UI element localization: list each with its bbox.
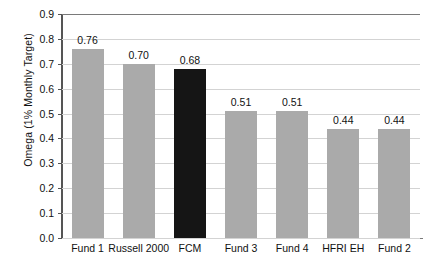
bar-group: 0.51 [276, 14, 308, 238]
x-axis-tick-label: Russell 2000 [108, 242, 169, 254]
bar-value-label: 0.44 [316, 114, 370, 126]
y-axis-tick-label: 0.9 [39, 8, 54, 20]
bar-group: 0.44 [327, 14, 359, 238]
y-axis-tick-label: 0.0 [39, 232, 54, 244]
bar-group: 0.44 [378, 14, 410, 238]
y-axis-tick-label: 0.1 [39, 207, 54, 219]
bar-group: 0.70 [123, 14, 155, 238]
bar-group: 0.68 [174, 14, 206, 238]
bar [327, 129, 359, 239]
x-axis-tick-label: Fund 4 [276, 242, 309, 254]
bar [72, 49, 104, 238]
y-axis-tick-label: 0.7 [39, 58, 54, 70]
bar-value-label: 0.44 [367, 114, 421, 126]
x-axis-tick-label: Fund 3 [225, 242, 258, 254]
y-axis-tick-label: 0.5 [39, 108, 54, 120]
x-axis-tick-label: Fund 1 [71, 242, 104, 254]
bar-value-label: 0.70 [112, 49, 166, 61]
bar-value-label: 0.76 [61, 34, 115, 46]
bar [378, 129, 410, 239]
bar [174, 69, 206, 238]
y-axis-tick-label: 0.4 [39, 132, 54, 144]
bar-series: 0.760.700.680.510.510.440.44 [62, 14, 420, 238]
y-axis-title: Omega (1% Monthly Target) [22, 10, 34, 190]
bar [225, 111, 257, 238]
bar-group: 0.76 [72, 14, 104, 238]
bar-chart: Omega (1% Monthly Target) 0.00.10.20.30.… [0, 0, 436, 277]
bar-value-label: 0.51 [214, 96, 268, 108]
bar-group: 0.51 [225, 14, 257, 238]
x-axis-tick-label: Fund 2 [378, 242, 411, 254]
x-axis-tick-label: HFRI EH [322, 242, 364, 254]
y-axis-tick-label: 0.2 [39, 182, 54, 194]
bar-value-label: 0.51 [265, 96, 319, 108]
y-axis-tick-label: 0.6 [39, 83, 54, 95]
bar [276, 111, 308, 238]
bar [123, 64, 155, 238]
gridline [62, 238, 420, 239]
plot-area: 0.00.10.20.30.40.50.60.70.80.9 0.760.700… [62, 14, 420, 238]
y-axis-tick [58, 238, 62, 239]
x-axis-tick-label: FCM [178, 242, 201, 254]
y-axis-tick-label: 0.3 [39, 157, 54, 169]
bar-value-label: 0.68 [163, 54, 217, 66]
y-axis-tick-label: 0.8 [39, 33, 54, 45]
